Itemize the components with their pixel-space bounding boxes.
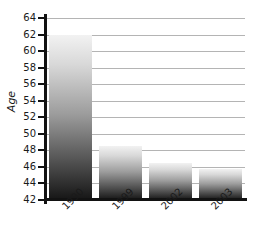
- y-tick-label: 60: [16, 45, 36, 56]
- y-tick-label: 54: [16, 95, 36, 106]
- y-tick-mark: [38, 50, 45, 52]
- y-axis-line: [44, 14, 47, 204]
- y-tick-mark: [38, 116, 45, 118]
- y-tick-label: 64: [16, 12, 36, 23]
- y-tick-label: 44: [16, 177, 36, 188]
- y-tick-label: 50: [16, 128, 36, 139]
- y-tick-label: 46: [16, 161, 36, 172]
- bar-chart: Age 424446485052545658606264 19901999200…: [0, 0, 264, 244]
- y-tick-mark: [38, 149, 45, 151]
- y-tick-mark: [38, 182, 45, 184]
- y-tick-label: 56: [16, 78, 36, 89]
- plot-area: [46, 18, 245, 200]
- y-tick-mark: [38, 166, 45, 168]
- y-tick-mark: [38, 199, 45, 201]
- y-tick-label: 42: [16, 194, 36, 205]
- y-tick-label: 58: [16, 62, 36, 73]
- y-tick-mark: [38, 83, 45, 85]
- bar: [49, 35, 92, 200]
- y-tick-mark: [38, 133, 45, 135]
- y-tick-label: 52: [16, 111, 36, 122]
- y-tick-mark: [38, 34, 45, 36]
- y-tick-mark: [38, 17, 45, 19]
- y-tick-mark: [38, 67, 45, 69]
- y-tick-label: 62: [16, 29, 36, 40]
- y-tick-mark: [38, 100, 45, 102]
- y-tick-label: 48: [16, 144, 36, 155]
- gridline: [46, 18, 245, 19]
